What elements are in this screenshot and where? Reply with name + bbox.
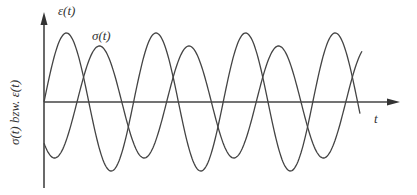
x-axis-label: t: [374, 111, 378, 127]
y-axis-label: σ(t) bzw. ε(t): [7, 80, 23, 145]
sigma-label: σ(t): [92, 28, 111, 44]
x-axis-arrow-icon: [387, 99, 400, 106]
axes: [44, 20, 392, 188]
epsilon-label: ε(t): [58, 3, 75, 19]
y-axis-arrow-icon: [41, 12, 48, 25]
stress-strain-diagram: [0, 0, 417, 195]
